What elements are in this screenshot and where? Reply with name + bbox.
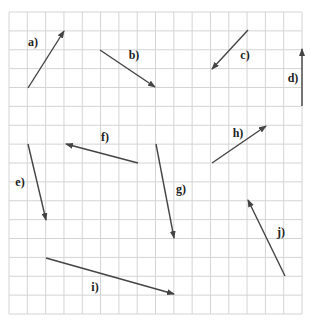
vectors — [28, 30, 302, 294]
vector-label-i: i) — [91, 281, 98, 293]
vector-label-h: h) — [233, 127, 244, 139]
vector-diagram — [0, 0, 310, 326]
vector-label-d: d) — [288, 72, 299, 84]
vector-arrow-g — [156, 144, 174, 238]
vector-arrow-f — [66, 144, 138, 163]
vector-label-c: c) — [240, 49, 249, 61]
grid — [9, 12, 302, 314]
vector-label-a: a) — [28, 36, 38, 48]
vector-label-g: g) — [176, 183, 186, 195]
vector-label-e: e) — [15, 176, 24, 188]
vector-label-j: j) — [277, 226, 285, 238]
vector-label-f: f) — [101, 131, 109, 143]
vector-label-b: b) — [129, 49, 140, 61]
